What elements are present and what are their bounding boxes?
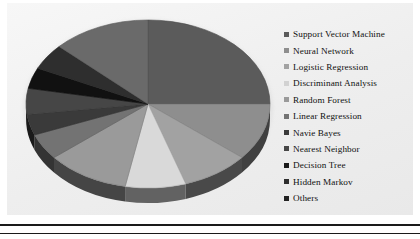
legend-item[interactable]: Hidden Markov (284, 174, 414, 190)
legend-item-label: Hidden Markov (293, 177, 353, 187)
legend-item-label: Linear Regression (293, 111, 362, 121)
legend-item[interactable]: Nearest Neighbor (284, 141, 414, 157)
legend-item-label: Decision Tree (293, 160, 346, 170)
legend-item-label: Discriminant Analysis (293, 78, 377, 88)
legend-swatch-icon (284, 146, 289, 151)
horizontal-rule-top (0, 224, 420, 226)
legend-swatch-icon (284, 32, 289, 37)
legend-item[interactable]: Decision Tree (284, 157, 414, 173)
pie-chart: Support Vector MachineNeural NetworkLogi… (18, 8, 278, 208)
legend-swatch-icon (284, 163, 289, 168)
legend-swatch-icon (284, 130, 289, 135)
legend-swatch-icon (284, 97, 289, 102)
horizontal-rule-bottom (0, 233, 420, 234)
legend-swatch-icon (284, 179, 289, 184)
legend-item[interactable]: Neural Network (284, 42, 414, 58)
pie-slice[interactable]: Support Vector Machine (148, 20, 270, 104)
legend-item-label: Neural Network (293, 46, 354, 56)
legend-item[interactable]: Navie Bayes (284, 124, 414, 140)
legend-item-label: Logistic Regression (293, 62, 368, 72)
legend-swatch-icon (284, 81, 289, 86)
figure-page: Support Vector MachineNeural NetworkLogi… (0, 0, 420, 239)
legend-item-label: Others (293, 193, 318, 203)
legend-swatch-icon (284, 48, 289, 53)
legend-item-label: Support Vector Machine (293, 29, 385, 39)
legend-swatch-icon (284, 196, 289, 201)
legend: Support Vector MachineNeural NetworkLogi… (284, 26, 414, 206)
legend-swatch-icon (284, 64, 289, 69)
legend-item-label: Nearest Neighbor (293, 144, 360, 154)
legend-item[interactable]: Logistic Regression (284, 59, 414, 75)
legend-item-label: Navie Bayes (293, 128, 341, 138)
legend-item-label: Random Forest (293, 95, 351, 105)
legend-item[interactable]: Support Vector Machine (284, 26, 414, 42)
pie-top-faces: Support Vector MachineNeural NetworkLogi… (26, 20, 270, 188)
legend-item[interactable]: Linear Regression (284, 108, 414, 124)
legend-item[interactable]: Others (284, 190, 414, 206)
legend-swatch-icon (284, 114, 289, 119)
legend-item[interactable]: Discriminant Analysis (284, 75, 414, 91)
pie-stage: Support Vector MachineNeural NetworkLogi… (18, 8, 278, 208)
legend-item[interactable]: Random Forest (284, 92, 414, 108)
pie-svg: Support Vector MachineNeural NetworkLogi… (18, 8, 278, 208)
